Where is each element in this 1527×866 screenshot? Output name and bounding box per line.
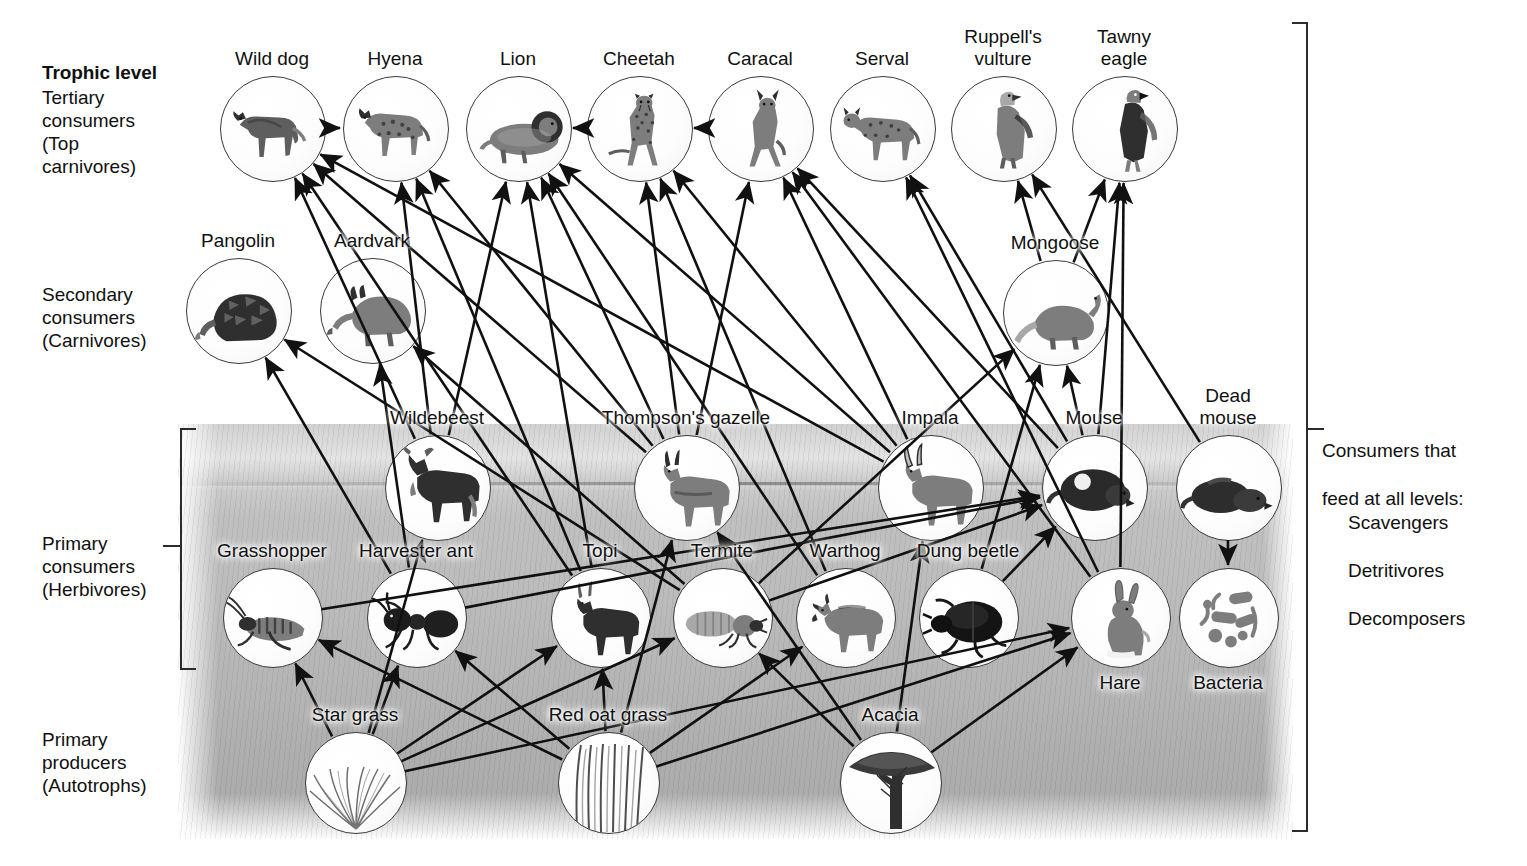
organism-pangolin <box>186 258 290 362</box>
feeding-arrow-deadmouse-to-vulture <box>1032 175 1200 443</box>
level-label-tertiary: Tertiary consumers (Top carnivores) <box>42 86 136 178</box>
organism-label-bacteria: Bacteria <box>1193 672 1263 694</box>
level-label-secondary: Secondary consumers (Carnivores) <box>42 283 147 352</box>
bottom-fade <box>178 793 1293 839</box>
sky-band <box>178 424 1293 486</box>
organism-label-warthog: Warthog <box>809 540 880 562</box>
organism-label-pangolin: Pangolin <box>201 230 275 252</box>
horizon-line <box>178 482 1293 485</box>
side-note-detritivores: Detritivores <box>1322 559 1465 583</box>
feeding-arrow-wildebeest-to-hyena <box>401 183 430 435</box>
organism-circle-eagle <box>1072 76 1178 182</box>
trophic-level-heading: Trophic level <box>42 62 157 84</box>
organism-label-aardvark: Aardvark <box>334 230 410 252</box>
organism-label-wilddog: Wild dog <box>235 48 309 70</box>
side-note-line2: feed at all levels: <box>1322 488 1464 509</box>
organism-label-ant: Harvester ant <box>359 540 473 562</box>
side-note-line1: Consumers that <box>1322 440 1456 461</box>
organism-label-hyena: Hyena <box>368 48 423 70</box>
organism-label-cheetah: Cheetah <box>603 48 675 70</box>
organism-label-gazelle: Thompson's gazelle <box>602 407 770 429</box>
feeding-arrow-wildebeest-to-wilddog <box>295 178 415 439</box>
organism-label-impala: Impala <box>901 407 958 429</box>
feeding-arrow-gazelle-to-hyena <box>430 171 653 446</box>
food-web-figure: Trophic level Tertiary consumers (Top ca… <box>0 0 1527 866</box>
organism-label-vulture: Ruppell's vulture <box>964 26 1042 70</box>
organism-label-eagle: Tawny eagle <box>1097 26 1151 70</box>
all-levels-bracket <box>1292 22 1308 832</box>
organism-vulture <box>951 76 1055 180</box>
organism-label-hare: Hare <box>1099 672 1140 694</box>
organism-circle-mongoose <box>1003 260 1109 366</box>
organism-mongoose <box>1003 260 1107 364</box>
organism-circle-caracal <box>708 76 814 182</box>
side-note-scavengers: Scavengers <box>1322 511 1465 535</box>
organism-circle-hyena <box>343 76 449 182</box>
feeding-arrow-impala-to-caracal <box>784 178 908 439</box>
organism-label-stargrass: Star grass <box>312 704 399 726</box>
organism-label-caracal: Caracal <box>727 48 792 70</box>
feeding-arrow-gazelle-to-cheetah <box>646 183 679 435</box>
primary-consumer-bracket-tick <box>163 545 182 547</box>
organism-circle-aardvark <box>320 258 426 364</box>
feeding-arrow-impala-to-cheetah <box>674 171 897 446</box>
feeding-arrow-mouse-to-serval <box>910 175 1067 441</box>
side-note-decomposers: Decomposers <box>1322 607 1465 631</box>
organism-label-serval: Serval <box>855 48 909 70</box>
organism-circle-pangolin <box>186 258 292 364</box>
organism-cheetah <box>587 76 691 180</box>
organism-circle-cheetah <box>587 76 693 182</box>
organism-circle-wilddog <box>220 76 326 182</box>
feeding-arrow-gazelle-to-caracal <box>697 182 749 435</box>
organism-label-topi: Topi <box>583 540 618 562</box>
organism-label-wildebeest: Wildebeest <box>390 407 484 429</box>
feeding-arrow-gazelle-to-lion <box>541 178 663 439</box>
organism-circle-lion <box>466 76 572 182</box>
organism-label-mouse: Mouse <box>1065 407 1122 429</box>
organism-caracal <box>708 76 812 180</box>
organism-serval <box>830 76 934 180</box>
organism-label-deadmouse: Dead mouse <box>1199 385 1256 429</box>
organism-lion <box>466 76 570 180</box>
organism-label-dungbeetle: Dung beetle <box>917 540 1019 562</box>
organism-circle-vulture <box>951 76 1057 182</box>
organism-label-lion: Lion <box>500 48 536 70</box>
organism-label-acacia: Acacia <box>861 704 918 726</box>
organism-circle-serval <box>830 76 936 182</box>
organism-hyena <box>343 76 447 180</box>
organism-label-grasshopper: Grasshopper <box>217 540 327 562</box>
savanna-background <box>178 424 1293 839</box>
right-fade <box>1263 424 1293 839</box>
feeding-arrow-wildebeest-to-lion <box>449 182 506 436</box>
organism-eagle <box>1072 76 1176 180</box>
organism-label-redoat: Red oat grass <box>549 704 667 726</box>
feeding-arrow-mouse-to-eagle <box>1098 183 1119 434</box>
level-label-producers: Primary producers (Autotrophs) <box>42 728 147 797</box>
level-label-primary: Primary consumers (Herbivores) <box>42 532 147 601</box>
organism-aardvark <box>320 258 424 362</box>
organism-label-termite: Termite <box>691 540 753 562</box>
primary-consumer-bracket <box>180 428 196 670</box>
organism-label-mongoose: Mongoose <box>1011 232 1100 254</box>
organism-wilddog <box>220 76 324 180</box>
side-note: Consumers that feed at all levels: Scave… <box>1322 415 1465 655</box>
